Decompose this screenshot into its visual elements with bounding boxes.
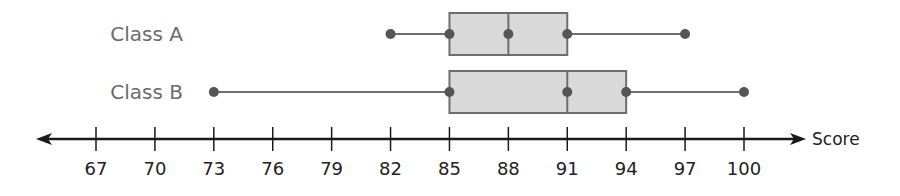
tick-label: 73 xyxy=(202,158,225,179)
tick-label: 67 xyxy=(85,158,108,179)
tick-label: 97 xyxy=(674,158,697,179)
tick-label: 100 xyxy=(727,158,761,179)
tick-label: 79 xyxy=(320,158,343,179)
q1-point xyxy=(444,87,454,97)
median-point xyxy=(503,29,513,39)
min-point xyxy=(209,87,219,97)
min-point xyxy=(386,29,396,39)
max-point xyxy=(680,29,690,39)
tick-label: 85 xyxy=(438,158,461,179)
max-point xyxy=(739,87,749,97)
row-label: Class A xyxy=(110,22,183,46)
q3-point xyxy=(621,87,631,97)
score-axis: Score6770737679828588919497100 xyxy=(36,127,860,179)
tick-label: 88 xyxy=(497,158,520,179)
tick-label: 76 xyxy=(261,158,284,179)
box-plot-chart: Class AClass B Score67707376798285889194… xyxy=(0,0,900,196)
tick-label: 94 xyxy=(615,158,638,179)
box-plot-rows: Class AClass B xyxy=(110,13,749,113)
tick-label: 70 xyxy=(143,158,166,179)
median-point xyxy=(562,87,572,97)
iqr-box xyxy=(449,71,626,113)
axis-title: Score xyxy=(812,129,860,149)
box-plot-class-a: Class A xyxy=(110,13,690,55)
tick-label: 82 xyxy=(379,158,402,179)
box-plot-class-b: Class B xyxy=(110,71,749,113)
tick-label: 91 xyxy=(556,158,579,179)
q1-point xyxy=(444,29,454,39)
row-label: Class B xyxy=(110,80,183,104)
q3-point xyxy=(562,29,572,39)
